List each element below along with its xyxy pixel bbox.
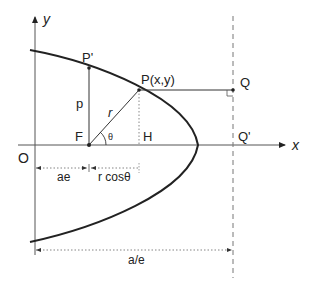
focus-point bbox=[87, 143, 91, 147]
a-over-e-label: a/e bbox=[128, 253, 145, 267]
latus-rectum-label: p bbox=[76, 96, 83, 111]
p-prime-point bbox=[87, 66, 91, 70]
ellipse-diagram: y x O P' P(x,y) Q Q' F H p r θ ae r cosθ… bbox=[0, 0, 315, 289]
q-label: Q bbox=[240, 75, 250, 90]
radius-segment bbox=[89, 90, 139, 145]
dimension-a-over-e bbox=[36, 248, 232, 252]
rcos-label: r cosθ bbox=[98, 170, 131, 184]
origin-label: O bbox=[18, 150, 29, 166]
x-axis-label: x bbox=[291, 137, 300, 153]
theta-arc bbox=[100, 132, 106, 145]
q-point bbox=[231, 88, 235, 92]
p-prime-label: P' bbox=[82, 50, 93, 65]
focus-label: F bbox=[75, 129, 83, 144]
y-axis-label: y bbox=[42, 11, 51, 27]
ae-label: ae bbox=[57, 170, 71, 184]
h-label: H bbox=[143, 129, 152, 144]
q-prime-label: Q' bbox=[238, 129, 251, 144]
p-label: P(x,y) bbox=[141, 72, 175, 87]
theta-label: θ bbox=[108, 132, 113, 142]
radius-label: r bbox=[108, 105, 113, 120]
p-point bbox=[137, 88, 141, 92]
